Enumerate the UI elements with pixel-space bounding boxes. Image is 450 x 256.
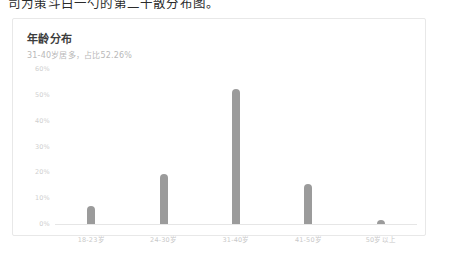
x-tick-label: 24-30岁 <box>150 236 177 244</box>
x-axis: 18-23岁24-30岁31-40岁41-50岁50岁以上 <box>55 227 417 246</box>
page-intro-text: 司为策斗白一勺的第二十散分布图。 <box>8 0 219 12</box>
bar-slot <box>127 69 199 224</box>
x-label-slot: 24-30岁 <box>127 227 199 246</box>
y-axis: 60%50%40%30%20%10%0% <box>27 69 53 224</box>
x-label-slot: 41-50岁 <box>272 227 344 246</box>
y-tick-label: 10% <box>35 194 50 202</box>
bar[interactable] <box>87 206 95 224</box>
y-tick-label: 0% <box>39 220 50 228</box>
y-tick-label: 60% <box>35 65 50 73</box>
x-tick-label: 41-50岁 <box>295 236 322 244</box>
bar-slot <box>200 69 272 224</box>
y-tick-label: 20% <box>35 168 50 176</box>
bar[interactable] <box>160 174 168 224</box>
card-subtitle: 31-40岁居多，占比52.26% <box>27 49 132 60</box>
bar[interactable] <box>232 89 240 224</box>
bar-series <box>55 69 417 224</box>
bar-slot <box>345 69 417 224</box>
x-tick-label: 18-23岁 <box>78 236 105 244</box>
x-label-slot: 31-40岁 <box>200 227 272 246</box>
bar-chart: 60%50%40%30%20%10%0% 18-23岁24-30岁31-40岁4… <box>27 69 417 229</box>
y-tick-label: 50% <box>35 91 50 99</box>
x-label-slot: 18-23岁 <box>55 227 127 246</box>
age-distribution-card: 年龄分布 31-40岁居多，占比52.26% 60%50%40%30%20%10… <box>12 18 426 236</box>
bar-slot <box>272 69 344 224</box>
x-tick-label: 50岁以上 <box>366 236 396 244</box>
y-tick-label: 40% <box>35 117 50 125</box>
card-title: 年龄分布 <box>27 30 73 46</box>
bar[interactable] <box>304 184 312 224</box>
x-label-slot: 50岁以上 <box>345 227 417 246</box>
x-axis-line <box>55 224 417 225</box>
y-tick-label: 30% <box>35 143 50 151</box>
bar-slot <box>55 69 127 224</box>
x-tick-label: 31-40岁 <box>222 236 249 244</box>
